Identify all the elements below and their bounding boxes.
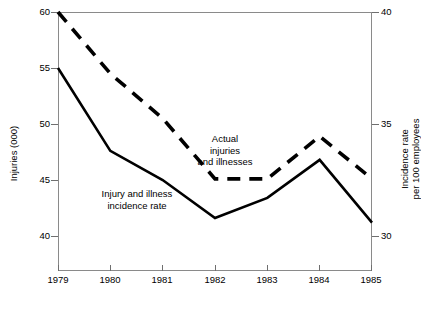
annotation-incidence-rate: Injury and illness incidence rate bbox=[77, 188, 197, 211]
annotation-actual-injuries: Actual injuries and illnesses bbox=[182, 133, 268, 168]
